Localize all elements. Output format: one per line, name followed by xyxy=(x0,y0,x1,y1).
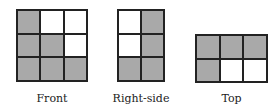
front-view-label: Front xyxy=(16,92,88,105)
unshaded-cell xyxy=(118,34,141,58)
shaded-cell xyxy=(40,57,63,81)
shaded-cell xyxy=(220,35,244,59)
shaded-cell xyxy=(196,59,220,83)
shaded-cell xyxy=(243,35,267,59)
unshaded-cell xyxy=(64,10,87,34)
shaded-cell xyxy=(141,34,164,58)
top-view-label: Top xyxy=(195,92,268,105)
shaded-cell xyxy=(118,57,141,81)
unshaded-cell xyxy=(220,59,244,83)
shaded-cell xyxy=(17,57,40,81)
right-side-view-grid xyxy=(117,9,165,82)
right-side-view-label: Right-side xyxy=(101,92,181,105)
shaded-cell xyxy=(196,35,220,59)
shaded-cell xyxy=(40,34,63,58)
shaded-cell xyxy=(17,10,40,34)
top-view-grid xyxy=(195,34,268,83)
shaded-cell xyxy=(17,34,40,58)
unshaded-cell xyxy=(64,34,87,58)
shaded-cell xyxy=(141,57,164,81)
shaded-cell xyxy=(64,57,87,81)
front-view-grid xyxy=(16,9,88,82)
unshaded-cell xyxy=(118,10,141,34)
unshaded-cell xyxy=(40,10,63,34)
shaded-cell xyxy=(141,10,164,34)
unshaded-cell xyxy=(243,59,267,83)
